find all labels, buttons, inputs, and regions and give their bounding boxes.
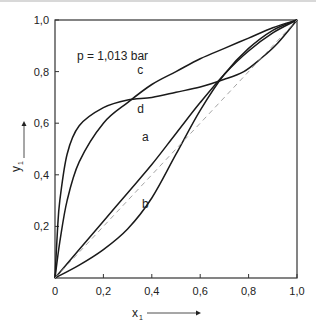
x-tick-label: 0,4 <box>144 285 159 297</box>
x-tick-label: 0,2 <box>96 285 111 297</box>
curve-label-a: a <box>142 130 149 144</box>
x-tick-label: 1,0 <box>289 285 304 297</box>
x-tick-label: 0,6 <box>193 285 208 297</box>
x-tick-label: 0,8 <box>241 285 256 297</box>
x-tick-label: 0 <box>52 285 58 297</box>
y-tick-label: 0,8 <box>34 66 49 78</box>
pressure-annotation: p = 1,013 bar <box>77 49 148 63</box>
curve-label-b: b <box>142 197 149 211</box>
curve-label-d: d <box>137 102 144 116</box>
vle-chart: 00,20,40,60,81,00,20,40,60,81,0x1y1p = 1… <box>0 0 316 327</box>
y-tick-label: 0,4 <box>34 169 49 181</box>
y-axis-label: y <box>9 166 23 172</box>
y-axis-label-sub: 1 <box>17 161 24 165</box>
x-axis-label: x <box>132 306 138 320</box>
y-tick-label: 0,2 <box>34 220 49 232</box>
x-axis-label-sub: 1 <box>139 314 143 321</box>
y-tick-label: 0,6 <box>34 117 49 129</box>
curve-label-c: c <box>137 63 143 77</box>
x-axis-arrowhead <box>196 311 201 316</box>
y-axis-label-group: y1 <box>9 161 24 172</box>
y-tick-label: 1,0 <box>34 14 49 26</box>
y-axis-arrowhead <box>22 121 27 126</box>
